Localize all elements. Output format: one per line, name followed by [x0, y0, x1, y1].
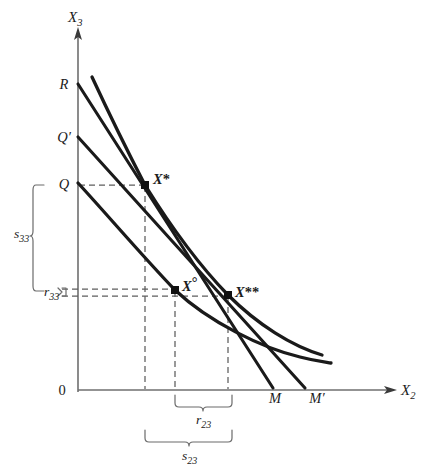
- point-label-x-star: X*: [152, 171, 170, 187]
- curves-group: [78, 77, 331, 388]
- marker-x-star: [141, 181, 149, 189]
- y-axis-label: X3: [67, 9, 82, 28]
- origin-label: 0: [58, 382, 65, 398]
- intercept-label-Q-prime: Q′: [57, 129, 71, 145]
- point-label-x-double-star-marks: **: [245, 284, 260, 300]
- point-label-x-circ-base: X: [181, 278, 192, 294]
- point-label-x-circ-marks: °: [192, 274, 198, 290]
- brace-s33: [30, 185, 44, 291]
- point-label-x-star-marks: *: [163, 171, 170, 187]
- intercept-label-M: M: [268, 390, 282, 406]
- brace-label-s33: s33: [14, 226, 29, 244]
- marker-x-double-star: [224, 291, 232, 299]
- figure-root: X3 X2 0 R Q′ Q M M′ X* X° X** s33 r3: [0, 0, 427, 470]
- brace-label-r23: r23: [196, 412, 211, 430]
- brace-r23: [175, 395, 232, 411]
- axes-group: [74, 27, 397, 394]
- brace-label-s23: s23: [182, 448, 197, 466]
- brace-label-s23-sub: 23: [187, 455, 197, 466]
- isoquant-curve-lower: [78, 183, 331, 363]
- braces-group: [30, 185, 232, 446]
- guide-lines-group: [62, 185, 228, 389]
- point-label-x-double-star-base: X: [234, 284, 245, 300]
- isocost-line-Qprime-Mprime: [78, 137, 305, 388]
- isoquant-isocost-diagram: X3 X2 0 R Q′ Q M M′ X* X° X** s33 r3: [0, 0, 427, 470]
- brace-label-r33: r33: [44, 284, 59, 302]
- x-axis-label: X2: [400, 382, 416, 401]
- brace-s23: [145, 430, 232, 446]
- point-label-x-double-star: X**: [234, 284, 259, 300]
- marker-x-circ: [171, 286, 179, 294]
- intercept-label-R: R: [59, 76, 69, 92]
- brace-label-r23-sub: 23: [201, 419, 211, 430]
- point-label-x-circ: X°: [181, 274, 198, 294]
- point-label-x-star-base: X: [152, 171, 163, 187]
- intercept-label-Q: Q: [59, 176, 70, 192]
- labels-group: X3 X2 0 R Q′ Q M M′ X* X° X** s33 r3: [14, 9, 416, 466]
- brace-label-r33-sub: 33: [48, 291, 59, 302]
- intercept-label-M-prime: M′: [308, 390, 325, 406]
- x-axis-label-sub: 2: [410, 390, 416, 401]
- brace-label-s33-sub: 33: [18, 233, 29, 244]
- y-axis-label-sub: 3: [76, 17, 82, 28]
